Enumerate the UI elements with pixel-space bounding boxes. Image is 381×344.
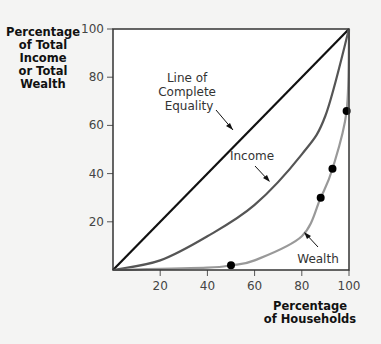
y-tick-label: 80 bbox=[89, 70, 104, 84]
y-tick-label: 40 bbox=[89, 167, 104, 181]
income-label: Income bbox=[230, 149, 274, 163]
x-axis-label: Percentage of Households bbox=[255, 300, 365, 326]
x-tick-label: 80 bbox=[294, 279, 309, 293]
y-tick-label: 100 bbox=[81, 22, 104, 36]
x-ticks: 20406080100 bbox=[153, 270, 361, 293]
x-axis-label-line: of Households bbox=[255, 313, 365, 326]
x-tick-label: 40 bbox=[200, 279, 215, 293]
data-point-marker bbox=[227, 261, 235, 269]
data-point-marker bbox=[328, 165, 336, 173]
x-tick-label: 60 bbox=[247, 279, 262, 293]
x-tick-label: 100 bbox=[338, 279, 361, 293]
equality-label: Line of Complete Equality bbox=[158, 71, 220, 113]
y-ticks: 20406080100 bbox=[81, 22, 113, 229]
x-tick-label: 20 bbox=[153, 279, 168, 293]
data-point-marker bbox=[317, 194, 325, 202]
y-tick-label: 60 bbox=[89, 118, 104, 132]
y-tick-label: 20 bbox=[89, 215, 104, 229]
lorenz-chart: 20406080100 20406080100 Line of Complete… bbox=[0, 0, 381, 344]
wealth-label: Wealth bbox=[297, 252, 339, 266]
